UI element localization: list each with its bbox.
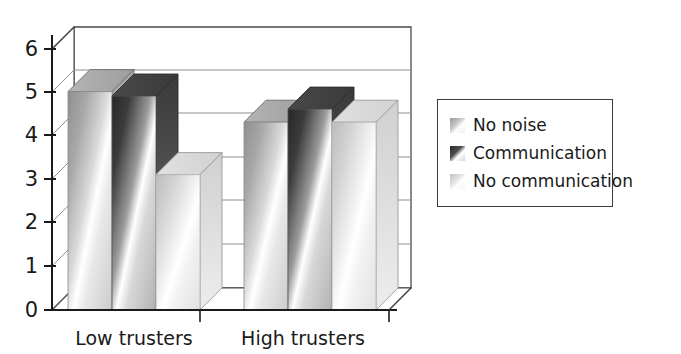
y-axis: 6 5 4 3 2 1 0: [25, 35, 58, 322]
bar-high-trusters-no-communication: [332, 100, 398, 310]
bar-front-face: [68, 92, 112, 310]
y-tick-label-0: 0: [25, 298, 38, 322]
bar-front-face: [112, 96, 156, 310]
x-tick-label-low-trusters: Low trusters: [75, 327, 193, 349]
legend-item-no-noise[interactable]: No noise: [450, 111, 612, 139]
legend-label-no-noise: No noise: [473, 117, 547, 134]
y-tick-label-5: 5: [25, 80, 38, 104]
y-tick-label-3: 3: [25, 167, 38, 191]
bar-front-face: [332, 122, 376, 310]
y-tick-label-6: 6: [25, 37, 38, 61]
x-tick-label-high-trusters: High trusters: [241, 327, 365, 349]
chart-legend: No noise Communication No communication: [437, 99, 613, 207]
bar-low-trusters-no-communication: [156, 153, 222, 310]
y-tick-label-4: 4: [25, 123, 38, 147]
bar-front-face: [288, 109, 332, 310]
legend-label-no-communication: No communication: [473, 173, 633, 190]
figure-container: 6 5 4 3 2 1 0: [0, 0, 681, 354]
bar-front-face: [244, 122, 288, 310]
y-tick-label-2: 2: [25, 210, 38, 234]
bar-side-face: [200, 153, 222, 310]
legend-swatch-no-communication-icon: [450, 174, 465, 189]
bar-front-face: [156, 175, 200, 310]
legend-swatch-communication-icon: [450, 146, 465, 161]
y-tick-label-1: 1: [25, 254, 38, 278]
legend-item-no-communication[interactable]: No communication: [450, 167, 612, 195]
legend-label-communication: Communication: [473, 145, 607, 162]
bar-side-face: [376, 100, 398, 310]
legend-item-communication[interactable]: Communication: [450, 139, 612, 167]
legend-swatch-no-noise-icon: [450, 118, 465, 133]
